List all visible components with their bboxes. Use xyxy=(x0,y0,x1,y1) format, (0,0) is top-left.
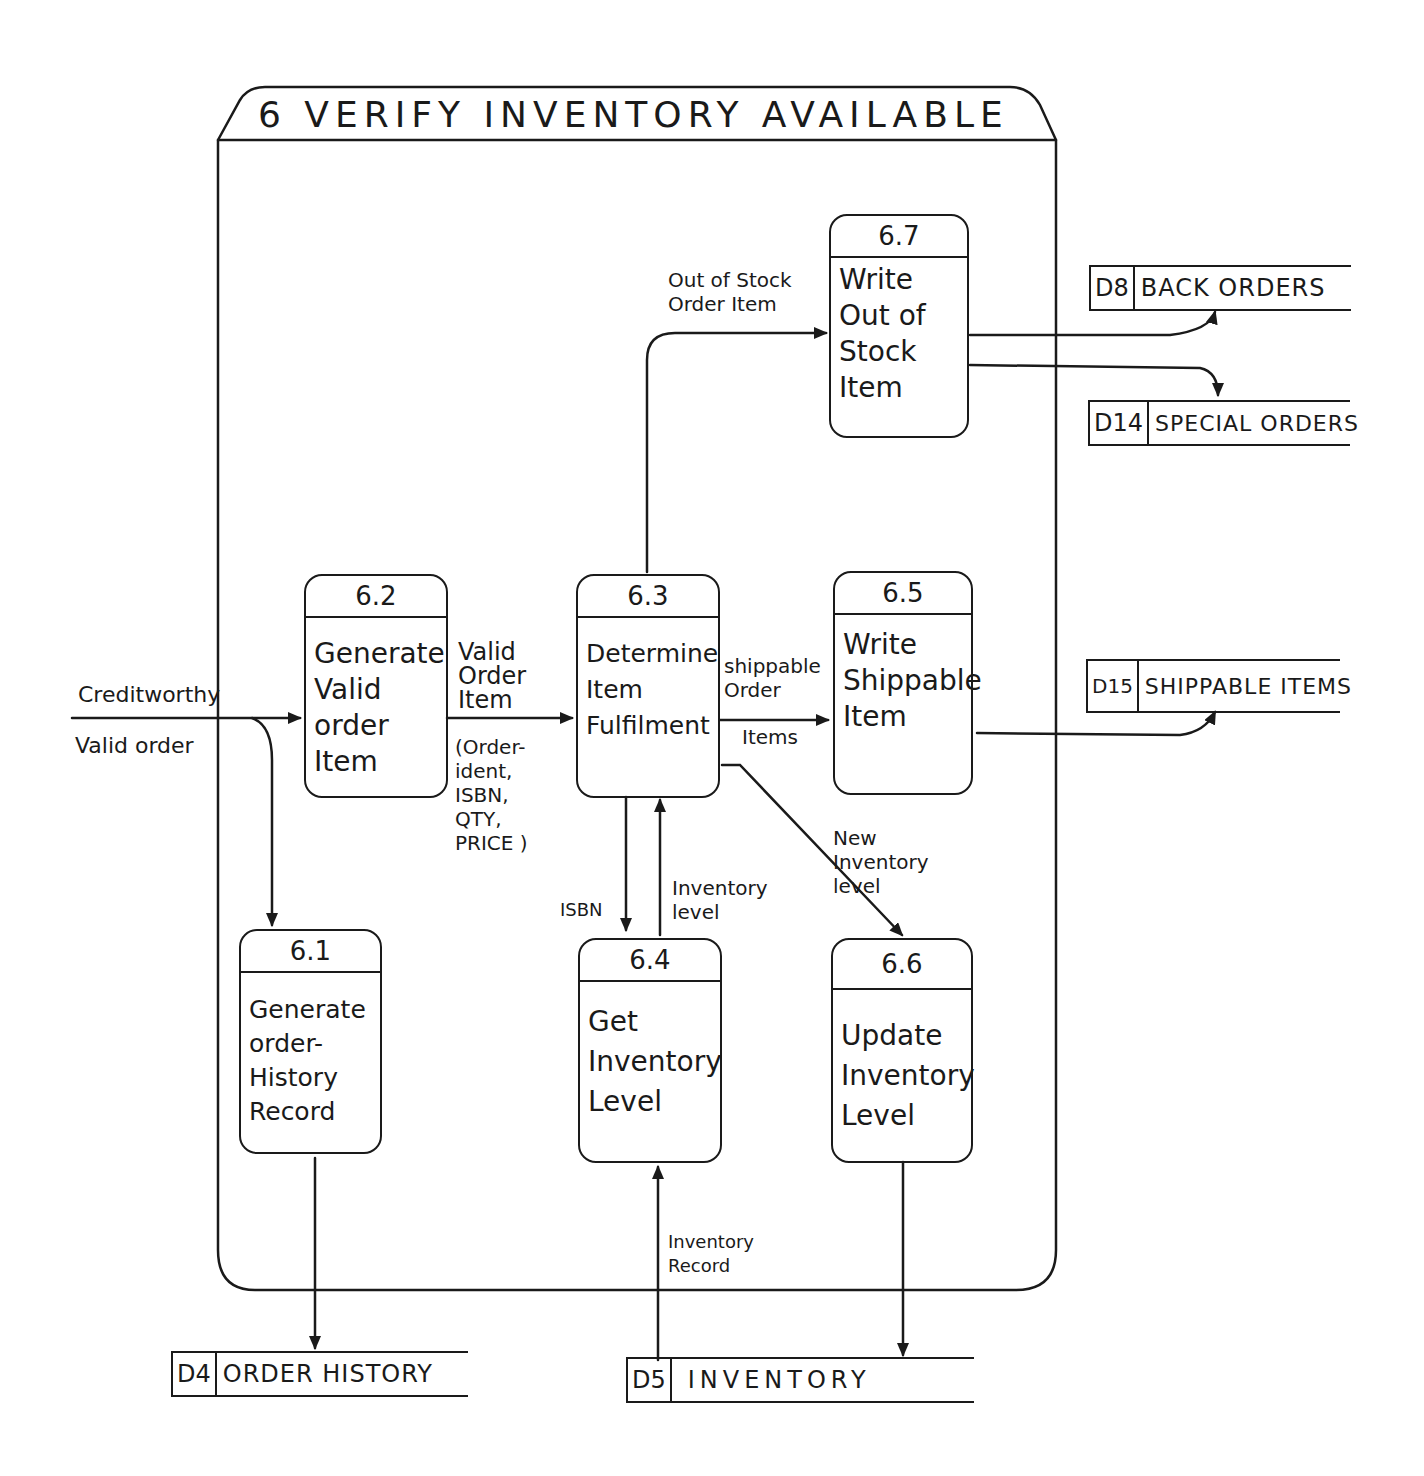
diagram-title: 6 VERIFY INVENTORY AVAILABLE xyxy=(258,96,1009,134)
flow-label-creditworthy: Creditworthy xyxy=(78,683,220,707)
process-6-3[interactable]: 6.3 Determine Item Fulfilment xyxy=(576,574,720,798)
data-store-d14[interactable]: D14 SPECIAL ORDERS xyxy=(1088,400,1350,446)
process-6-2[interactable]: 6.2 Generate Valid order Item xyxy=(304,574,448,798)
data-store-d5[interactable]: D5 INVENTORY xyxy=(626,1357,974,1403)
store-id: D5 xyxy=(628,1359,672,1401)
flow-label-order-item-detail: (Order- ident, ISBN, QTY, PRICE ) xyxy=(455,735,528,855)
process-id: 6.1 xyxy=(241,931,380,973)
process-id: 6.6 xyxy=(833,940,971,990)
store-id: D8 xyxy=(1091,267,1135,309)
process-id: 6.5 xyxy=(835,573,971,615)
data-store-d8[interactable]: D8 BACK ORDERS xyxy=(1089,265,1351,311)
process-id: 6.2 xyxy=(306,576,446,618)
flow-label-shippable-order: shippable Order xyxy=(724,654,821,702)
flow-label-new-inventory-level: New Inventory level xyxy=(833,826,929,898)
flow-label-inventory-record: Inventory Record xyxy=(668,1230,754,1278)
store-name: INVENTORY xyxy=(672,1366,871,1394)
flow-label-valid-order: Valid order xyxy=(75,734,194,758)
flow-label-inventory-level: Inventory level xyxy=(672,876,768,924)
process-name: Update Inventory Level xyxy=(833,990,971,1136)
process-id: 6.4 xyxy=(580,940,720,982)
store-id: D4 xyxy=(173,1353,217,1395)
process-6-6[interactable]: 6.6 Update Inventory Level xyxy=(831,938,973,1163)
flow-label-items: Items xyxy=(742,725,798,749)
process-name: Write Out of Stock Item xyxy=(831,258,967,406)
flow-label-valid-order-item: Valid Order Item xyxy=(458,640,526,712)
store-id: D14 xyxy=(1090,402,1149,444)
flow-label-out-of-stock: Out of Stock Order Item xyxy=(668,268,792,316)
store-name: ORDER HISTORY xyxy=(217,1360,433,1388)
process-6-7[interactable]: 6.7 Write Out of Stock Item xyxy=(829,214,969,438)
store-name: SPECIAL ORDERS xyxy=(1149,411,1359,436)
store-id: D15 xyxy=(1088,661,1139,711)
process-name: Generate order- History Record xyxy=(241,973,380,1129)
process-id: 6.7 xyxy=(831,216,967,258)
store-name: SHIPPABLE ITEMS xyxy=(1139,674,1352,699)
process-id: 6.3 xyxy=(578,576,718,618)
process-6-5[interactable]: 6.5 Write Shippable Item xyxy=(833,571,973,795)
data-store-d4[interactable]: D4 ORDER HISTORY xyxy=(171,1351,468,1397)
process-6-4[interactable]: 6.4 Get Inventory Level xyxy=(578,938,722,1163)
data-store-d15[interactable]: D15 SHIPPABLE ITEMS xyxy=(1086,659,1340,713)
store-name: BACK ORDERS xyxy=(1135,274,1326,302)
process-name: Determine Item Fulfilment xyxy=(578,618,718,744)
process-name: Get Inventory Level xyxy=(580,982,720,1122)
process-name: Generate Valid order Item xyxy=(306,618,446,780)
process-6-1[interactable]: 6.1 Generate order- History Record xyxy=(239,929,382,1154)
process-name: Write Shippable Item xyxy=(835,615,971,735)
flow-label-isbn: ISBN xyxy=(560,898,603,922)
